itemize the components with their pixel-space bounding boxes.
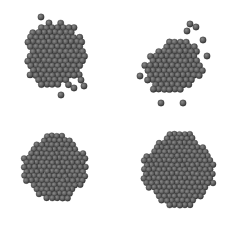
cluster-panel-bottom-right [117,113,234,226]
atom-sphere [38,14,44,20]
atom-sphere [177,86,183,92]
atom-sphere [55,81,61,87]
cluster-image [117,113,234,226]
atom-sphere [49,195,55,201]
atom-sphere [78,77,84,83]
atom-sphere [187,21,193,27]
atom-sphere [71,85,77,91]
atom-sphere [146,185,152,191]
cluster-image [0,0,117,113]
cluster-panel-top-right [117,0,234,113]
cluster-panel-bottom-left [0,113,117,226]
cluster-panel-top-left [0,0,117,113]
atom-sphere [159,197,165,203]
atom-sphere [81,83,87,89]
atom-sphere [65,195,71,201]
atom-sphere [184,28,190,34]
atom-sphere [180,100,186,106]
atom-sphere [150,86,156,92]
atom-sphere [193,24,199,30]
atom-sphere [137,73,143,79]
atom-sphere [23,178,29,184]
cluster-image [117,0,234,113]
atom-sphere [144,77,150,83]
atom-sphere [158,100,164,106]
atom-sphere [65,82,71,88]
atom-sphere [71,72,77,78]
atom-sphere [177,202,183,208]
atom-sphere [49,81,55,87]
atom-sphere [204,53,210,59]
atom-sphere [38,81,44,87]
cluster-image [0,113,117,226]
atom-sphere [27,72,33,78]
atom-sphere [210,180,216,186]
atom-sphere [196,72,202,78]
atom-sphere [44,195,50,201]
atom-sphere [200,37,206,43]
atom-sphere [166,86,172,92]
atom-sphere [167,202,173,208]
atom-sphere [58,92,64,98]
atom-sphere [77,182,83,188]
atom-sphere [36,191,42,197]
